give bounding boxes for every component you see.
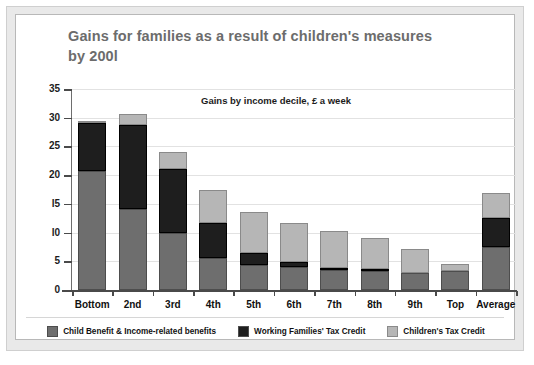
x-axis-label: 2nd	[112, 299, 152, 310]
x-axis-tick	[516, 291, 518, 296]
legend-swatch-wftc	[238, 326, 249, 337]
bar-group[interactable]	[78, 89, 106, 290]
x-axis-tick	[274, 291, 276, 296]
y-axis-tick	[64, 290, 72, 292]
y-axis-tick-label: 0	[34, 284, 60, 295]
bar-segment-child-benefit[interactable]	[361, 271, 389, 290]
bar-segment-child-benefit[interactable]	[240, 265, 268, 290]
bar-segment-ctc[interactable]	[441, 264, 469, 271]
x-axis-label: 8th	[355, 299, 395, 310]
x-axis-label: 5th	[233, 299, 273, 310]
bar-group[interactable]	[441, 89, 469, 290]
chart-legend: Child Benefit & Income-related benefitsW…	[26, 321, 506, 341]
x-axis-tick	[72, 291, 74, 296]
bar-segment-ctc[interactable]	[159, 152, 187, 169]
bar-segment-child-benefit[interactable]	[280, 267, 308, 290]
x-axis-label: 4th	[193, 299, 233, 310]
bar-group[interactable]	[361, 89, 389, 290]
bar-segment-ctc[interactable]	[78, 121, 106, 123]
y-axis-tick-label: 35	[34, 83, 60, 94]
legend-label: Working Families' Tax Credit	[254, 327, 365, 336]
bar-segment-ctc[interactable]	[401, 249, 429, 274]
bar-segment-wftc[interactable]	[78, 123, 106, 171]
bar-segment-wftc[interactable]	[119, 125, 147, 209]
bar-segment-child-benefit[interactable]	[482, 247, 510, 290]
bar-segment-child-benefit[interactable]	[78, 171, 106, 290]
y-axis-tick	[64, 146, 72, 148]
y-axis-tick	[64, 233, 72, 235]
x-axis-label: 9th	[395, 299, 435, 310]
bar-segment-child-benefit[interactable]	[159, 233, 187, 290]
bar-segment-ctc[interactable]	[199, 190, 227, 223]
plot-area	[72, 89, 516, 290]
bar-group[interactable]	[482, 89, 510, 290]
y-axis-tick-label: 20	[34, 169, 60, 180]
legend-item[interactable]: Working Families' Tax Credit	[238, 326, 365, 337]
y-axis-tick	[64, 175, 72, 177]
bar-group[interactable]	[240, 89, 268, 290]
bar-segment-ctc[interactable]	[361, 238, 389, 269]
x-axis-line	[62, 290, 517, 292]
y-axis-tick-label: 25	[34, 140, 60, 151]
bar-segment-child-benefit[interactable]	[119, 209, 147, 290]
page-title: Gains for families as a result of childr…	[68, 27, 448, 66]
x-axis-label: 3rd	[153, 299, 193, 310]
y-axis-tick-label: l5	[34, 198, 60, 209]
figure-frame: Gains for families as a result of childr…	[6, 6, 524, 351]
bar-segment-child-benefit[interactable]	[441, 271, 469, 290]
bar-segment-ctc[interactable]	[280, 223, 308, 262]
y-axis-tick	[64, 89, 72, 91]
x-axis-label: 6th	[274, 299, 314, 310]
x-axis-label: Average	[476, 299, 516, 310]
bar-group[interactable]	[119, 89, 147, 290]
bar-segment-wftc[interactable]	[482, 218, 510, 247]
bar-segment-wftc[interactable]	[199, 223, 227, 258]
legend-item[interactable]: Children's Tax Credit	[387, 326, 484, 337]
bar-group[interactable]	[199, 89, 227, 290]
bar-segment-wftc[interactable]	[240, 253, 268, 265]
x-axis-tick	[112, 291, 114, 296]
bar-segment-child-benefit[interactable]	[199, 258, 227, 290]
bar-segment-wftc[interactable]	[320, 268, 348, 271]
bar-segment-ctc[interactable]	[240, 212, 268, 253]
figure-panel: Gains for families as a result of childr…	[15, 14, 515, 340]
y-axis-tick	[64, 261, 72, 263]
x-axis-tick	[153, 291, 155, 296]
x-axis-tick	[435, 291, 437, 296]
bar-group[interactable]	[159, 89, 187, 290]
legend-divider	[26, 317, 504, 318]
legend-label: Child Benefit & Income-related benefits	[63, 327, 216, 336]
y-axis-tick-label: 5	[34, 255, 60, 266]
bar-segment-ctc[interactable]	[119, 114, 147, 124]
legend-swatch-ctc	[387, 326, 398, 337]
y-axis-tick	[64, 118, 72, 120]
bar-segment-wftc[interactable]	[361, 269, 389, 271]
legend-swatch-child-benefit	[47, 326, 58, 337]
y-axis-tick	[64, 204, 72, 206]
legend-label: Children's Tax Credit	[403, 327, 484, 336]
bar-segment-wftc[interactable]	[280, 262, 308, 267]
legend-item[interactable]: Child Benefit & Income-related benefits	[47, 326, 216, 337]
bar-segment-child-benefit[interactable]	[401, 273, 429, 290]
bar-group[interactable]	[320, 89, 348, 290]
x-axis-tick	[355, 291, 357, 296]
x-axis-label: 7th	[314, 299, 354, 310]
x-axis-tick	[476, 291, 478, 296]
x-axis-tick	[314, 291, 316, 296]
bar-segment-child-benefit[interactable]	[320, 270, 348, 290]
bar-group[interactable]	[280, 89, 308, 290]
bar-group[interactable]	[401, 89, 429, 290]
y-axis-tick-label: l0	[34, 227, 60, 238]
x-axis-tick	[395, 291, 397, 296]
bar-segment-wftc[interactable]	[159, 169, 187, 232]
x-axis-label: Top	[435, 299, 475, 310]
bar-segment-ctc[interactable]	[320, 231, 348, 267]
x-axis-tick	[233, 291, 235, 296]
bar-segment-ctc[interactable]	[482, 193, 510, 218]
x-axis-label: Bottom	[72, 299, 112, 310]
x-axis-tick	[193, 291, 195, 296]
y-axis-tick-label: 30	[34, 112, 60, 123]
